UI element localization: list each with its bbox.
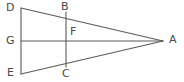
segment-EA xyxy=(21,41,163,74)
geometry-diagram: D B A G F E C xyxy=(0,0,184,82)
vertex-label-c: C xyxy=(62,68,70,79)
segment-DA xyxy=(21,8,163,41)
vertex-label-f: F xyxy=(70,26,76,37)
vertex-label-a: A xyxy=(169,34,177,45)
diagram-canvas xyxy=(0,0,184,82)
vertex-label-e: E xyxy=(7,67,14,78)
vertex-label-d: D xyxy=(6,2,14,13)
vertex-label-g: G xyxy=(6,35,15,46)
vertex-label-b: B xyxy=(61,1,69,12)
